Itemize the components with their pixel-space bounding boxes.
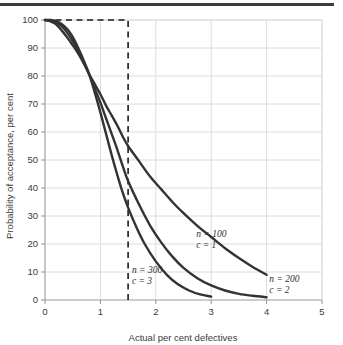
figure: 012345 0102030405060708090100 n = 100c =…	[0, 0, 343, 345]
y-tick-label: 30	[27, 210, 38, 221]
grid-lines	[45, 20, 322, 300]
series-label-n: n = 300	[132, 265, 162, 275]
y-tick-label: 0	[33, 294, 38, 305]
x-tick-label: 4	[264, 306, 269, 317]
y-tick-label: 80	[27, 70, 38, 81]
chart-svg: 012345 0102030405060708090100 n = 100c =…	[0, 0, 343, 345]
x-tick-label: 2	[153, 306, 158, 317]
y-tick-label: 90	[27, 42, 38, 53]
x-axis-title: Actual per cent defectives	[129, 332, 238, 343]
y-axis-title: Probability of acceptance, per cent	[4, 93, 15, 239]
series-label-c: c = 2	[269, 285, 289, 295]
x-tick-label: 3	[209, 306, 214, 317]
y-tick-label: 20	[27, 238, 38, 249]
x-axis-tick-labels: 012345	[42, 306, 324, 317]
x-tick-label: 1	[98, 306, 103, 317]
y-tick-label: 70	[27, 98, 38, 109]
y-tick-label: 40	[27, 182, 38, 193]
y-axis-tick-labels: 0102030405060708090100	[22, 14, 38, 305]
series-label-c: c = 3	[132, 276, 152, 286]
series-label-n: n = 100	[196, 229, 226, 239]
series-label-n: n = 200	[269, 274, 299, 284]
y-tick-label: 10	[27, 266, 38, 277]
y-tick-label: 60	[27, 126, 38, 137]
x-tick-label: 5	[319, 306, 324, 317]
series-label-c: c = 1	[196, 240, 216, 250]
oc-curve-chart: 012345 0102030405060708090100 n = 100c =…	[0, 0, 343, 345]
y-tick-label: 100	[22, 14, 38, 25]
x-tick-label: 0	[42, 306, 47, 317]
y-tick-label: 50	[27, 154, 38, 165]
